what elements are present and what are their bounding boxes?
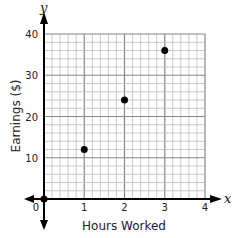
grid [44, 34, 205, 199]
x-tick-label: 0 [33, 202, 39, 213]
data-point [81, 146, 88, 153]
y-tick-label: 10 [25, 153, 38, 164]
y-tick-label: 30 [25, 70, 38, 81]
data-point [41, 196, 48, 203]
data-point [161, 47, 168, 54]
x-tick-label: 2 [121, 202, 127, 213]
y-tick-label: 20 [25, 112, 38, 123]
scatter-chart: y x 01234 10203040 Hours Worked Earnings… [0, 0, 239, 238]
y-tick-labels: 10203040 [25, 29, 38, 164]
y-axis-down-arrow-icon [40, 220, 48, 230]
x-axis-name: x [224, 191, 232, 206]
axes [24, 12, 222, 230]
y-axis-label: Earnings ($) [9, 80, 23, 153]
x-tick-label: 4 [202, 202, 208, 213]
x-tick-label: 1 [81, 202, 87, 213]
y-axis-name: y [39, 0, 48, 15]
data-point [121, 97, 128, 104]
x-tick-labels: 01234 [33, 202, 208, 213]
y-tick-label: 40 [25, 29, 38, 40]
x-axis-label: Hours Worked [82, 219, 166, 233]
x-axis-arrow-icon [210, 195, 222, 203]
x-tick-label: 3 [162, 202, 168, 213]
